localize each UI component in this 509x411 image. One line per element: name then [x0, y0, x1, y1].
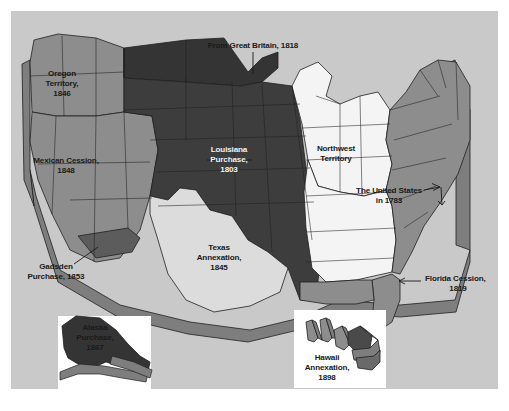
svg-text:Gadsden: Gadsden: [39, 262, 73, 271]
svg-text:Northwest: Northwest: [317, 144, 356, 153]
territorial-expansion-map: Oregon Territory, 1846 Mexican Cession, …: [0, 0, 509, 411]
svg-text:Texas: Texas: [208, 243, 230, 252]
svg-text:Purchase,: Purchase,: [76, 333, 113, 342]
svg-text:Annexation,: Annexation,: [197, 253, 242, 262]
svg-text:1848: 1848: [57, 166, 75, 175]
svg-text:Purchase,: Purchase,: [210, 155, 247, 164]
region-gulf-coast-strip: [300, 280, 374, 304]
label-from-great-britain: From Great Britain, 1818: [208, 41, 299, 50]
svg-text:in 1783: in 1783: [376, 196, 403, 205]
svg-text:Mexican Cession,: Mexican Cession,: [33, 156, 99, 165]
svg-text:Alaska: Alaska: [82, 323, 108, 332]
region-oregon-territory: [30, 34, 124, 116]
svg-text:Oregon: Oregon: [48, 69, 76, 78]
svg-text:1898: 1898: [318, 373, 336, 382]
svg-text:1867: 1867: [86, 343, 104, 352]
svg-text:Louisiana: Louisiana: [211, 145, 248, 154]
svg-text:Florida Cession,: Florida Cession,: [425, 274, 486, 283]
map-canvas: Oregon Territory, 1846 Mexican Cession, …: [0, 0, 509, 411]
svg-text:Territory,: Territory,: [46, 79, 79, 88]
label-northwest-territory: Northwest Territory: [317, 144, 356, 163]
svg-text:1845: 1845: [210, 263, 228, 272]
svg-text:The United States: The United States: [356, 186, 422, 195]
svg-text:Purchase, 1853: Purchase, 1853: [28, 272, 85, 281]
svg-text:From Great Britain, 1818: From Great Britain, 1818: [208, 41, 299, 50]
svg-text:1803: 1803: [220, 165, 238, 174]
svg-text:1819: 1819: [449, 284, 467, 293]
svg-text:Hawaii: Hawaii: [315, 353, 340, 362]
svg-text:1846: 1846: [53, 89, 71, 98]
svg-text:Annexation,: Annexation,: [305, 363, 350, 372]
svg-text:Territory: Territory: [320, 154, 352, 163]
inset-hawaii-annexation: [294, 310, 386, 388]
